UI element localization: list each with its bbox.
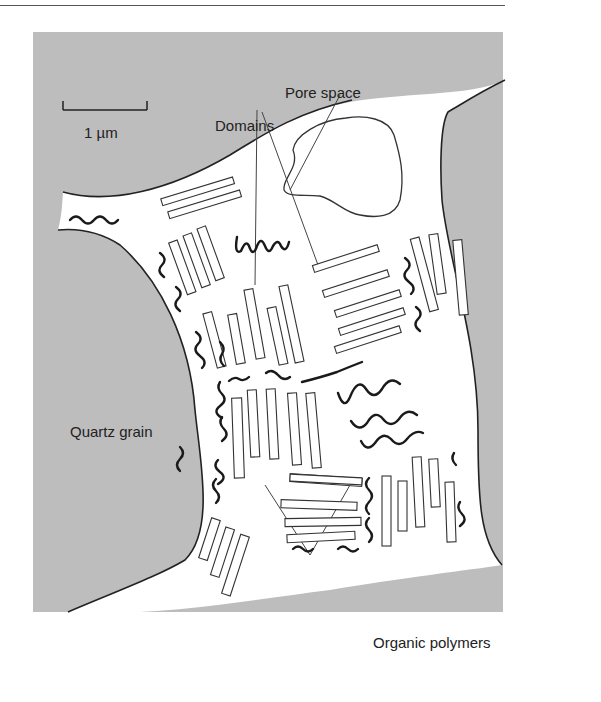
label-organic-polymers: Organic polymers bbox=[373, 634, 491, 651]
label-quartz-grain: Quartz grain bbox=[70, 423, 153, 440]
scale-bar-label: 1 µm bbox=[84, 124, 118, 141]
scale-bar bbox=[63, 101, 147, 110]
label-pore-space: Pore space bbox=[285, 84, 361, 101]
diagram-canvas bbox=[0, 0, 601, 702]
label-domains: Domains bbox=[215, 117, 274, 134]
